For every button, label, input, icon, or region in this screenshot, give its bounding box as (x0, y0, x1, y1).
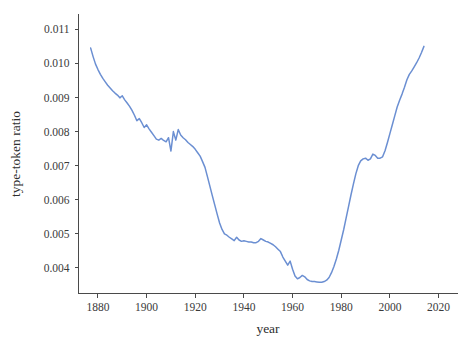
y-tick-label: 0.007 (44, 160, 70, 172)
x-tick-label: 2020 (427, 301, 450, 313)
y-tick-label: 0.010 (44, 57, 70, 69)
x-tick-label: 2000 (378, 301, 401, 313)
axis-spines (79, 14, 459, 294)
x-axis-ticks: 18801900192019401960198020002020 (86, 294, 450, 313)
data-line (91, 46, 424, 282)
y-tick-label: 0.006 (44, 194, 70, 206)
chart-figure: 18801900192019401960198020002020 0.0040.… (0, 0, 472, 346)
data-series-group (91, 46, 424, 282)
x-tick-label: 1900 (135, 301, 158, 313)
y-tick-label: 0.004 (44, 262, 70, 274)
y-tick-label: 0.008 (44, 126, 70, 138)
y-tick-label: 0.011 (44, 23, 70, 35)
line-chart-svg: 18801900192019401960198020002020 0.0040.… (0, 0, 472, 346)
y-axis-title: type-token ratio (8, 111, 23, 197)
y-tick-label: 0.005 (44, 228, 70, 240)
x-tick-label: 1960 (281, 301, 304, 313)
x-tick-label: 1980 (330, 301, 353, 313)
y-axis-ticks: 0.0040.0050.0060.0070.0080.0090.0100.011 (44, 23, 79, 274)
x-tick-label: 1880 (86, 301, 109, 313)
x-tick-label: 1940 (232, 301, 255, 313)
x-tick-label: 1920 (184, 301, 207, 313)
x-axis-title: year (256, 321, 280, 336)
y-tick-label: 0.009 (44, 92, 70, 104)
